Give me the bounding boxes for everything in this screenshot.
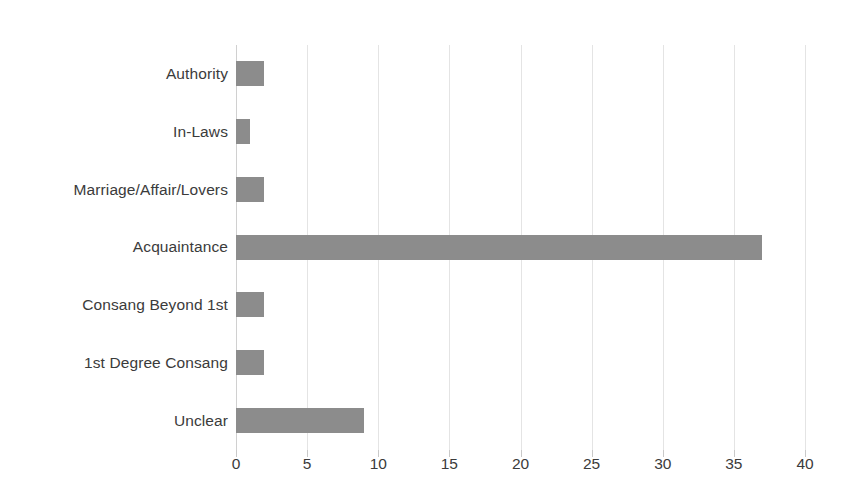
category-label-row: Authority <box>0 45 228 103</box>
bar-row <box>236 276 805 334</box>
bars-layer <box>236 45 805 450</box>
category-label-row: Unclear <box>0 392 228 450</box>
bar-row <box>236 392 805 450</box>
bar[interactable] <box>236 119 250 144</box>
bar-row <box>236 103 805 161</box>
category-label-row: 1st Degree Consang <box>0 334 228 392</box>
bar-chart: AuthorityIn-LawsMarriage/Affair/LoversAc… <box>0 0 851 497</box>
gridline-40 <box>805 45 806 450</box>
x-tick-label: 30 <box>654 455 671 473</box>
category-label: 1st Degree Consang <box>84 354 228 372</box>
bar-row <box>236 161 805 219</box>
bar-row <box>236 334 805 392</box>
category-label: Acquaintance <box>133 238 228 256</box>
category-label: Consang Beyond 1st <box>82 296 228 314</box>
x-tick-label: 20 <box>512 455 529 473</box>
category-label: Authority <box>166 65 228 83</box>
bar[interactable] <box>236 177 264 202</box>
x-tick-label: 5 <box>303 455 312 473</box>
x-tick-label: 0 <box>232 455 241 473</box>
bar[interactable] <box>236 350 264 375</box>
bar[interactable] <box>236 61 264 86</box>
category-label-row: In-Laws <box>0 103 228 161</box>
bar[interactable] <box>236 408 364 433</box>
x-tick-label: 40 <box>796 455 813 473</box>
bar[interactable] <box>236 292 264 317</box>
category-label-row: Acquaintance <box>0 219 228 277</box>
category-axis-labels: AuthorityIn-LawsMarriage/Affair/LoversAc… <box>0 45 228 450</box>
x-tick-label: 35 <box>725 455 742 473</box>
category-label: In-Laws <box>173 123 228 141</box>
category-label-row: Marriage/Affair/Lovers <box>0 161 228 219</box>
bar-row <box>236 219 805 277</box>
category-label-row: Consang Beyond 1st <box>0 276 228 334</box>
x-tick-label: 10 <box>370 455 387 473</box>
x-tick-label: 15 <box>441 455 458 473</box>
plot-area <box>236 45 805 450</box>
category-label: Unclear <box>174 412 228 430</box>
bar[interactable] <box>236 235 762 260</box>
x-tick-label: 25 <box>583 455 600 473</box>
category-label: Marriage/Affair/Lovers <box>74 181 228 199</box>
x-axis-tick-labels: 0510152025303540 <box>236 455 805 483</box>
bar-row <box>236 45 805 103</box>
